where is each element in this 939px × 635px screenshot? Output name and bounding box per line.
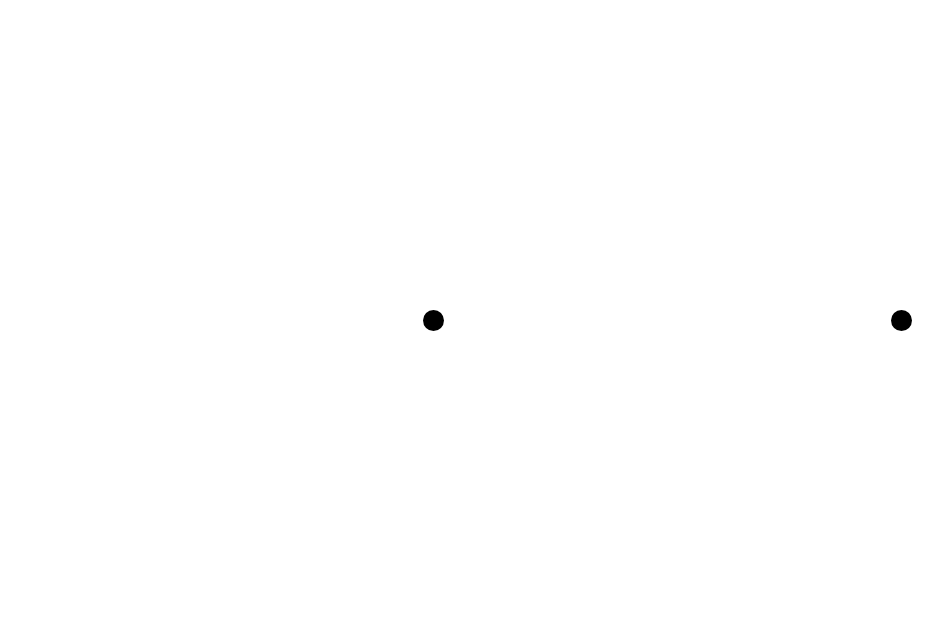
black-dot-left	[423, 310, 444, 331]
black-dot-right	[891, 310, 912, 331]
blank-canvas	[0, 0, 939, 635]
